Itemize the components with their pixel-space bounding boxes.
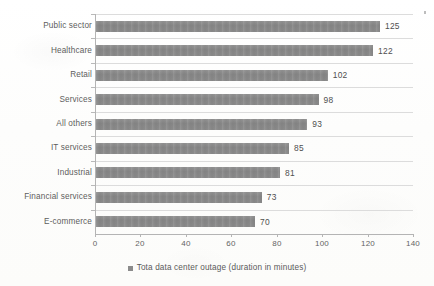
bar bbox=[96, 167, 280, 178]
bar bbox=[96, 94, 319, 105]
gridline bbox=[95, 210, 413, 211]
category-label: Public sector bbox=[0, 22, 92, 30]
x-axis-tick bbox=[277, 234, 278, 237]
bar bbox=[96, 70, 328, 81]
x-axis-tick-label: 120 bbox=[353, 240, 383, 248]
x-axis-tick-label: 40 bbox=[171, 240, 201, 248]
bar bbox=[96, 216, 255, 227]
y-axis-tick bbox=[91, 161, 95, 162]
category-label: IT services bbox=[0, 144, 92, 152]
bar-value-label: 70 bbox=[260, 218, 270, 226]
x-axis-tick-label: 60 bbox=[216, 240, 246, 248]
gridline bbox=[95, 87, 413, 88]
plot-area: Public sectorHealthcareRetailServicesAll… bbox=[0, 0, 434, 286]
bar-value-label: 85 bbox=[294, 144, 304, 152]
bar bbox=[96, 21, 380, 32]
x-axis-tick-label: 0 bbox=[80, 240, 110, 248]
bar-value-label: 73 bbox=[267, 193, 277, 201]
x-axis-tick bbox=[95, 234, 96, 237]
category-label: Retail bbox=[0, 71, 92, 79]
x-axis-tick bbox=[368, 234, 369, 237]
bar-value-label: 102 bbox=[333, 71, 348, 79]
bar-value-label: 93 bbox=[312, 120, 322, 128]
gridline bbox=[95, 63, 413, 64]
y-axis-tick bbox=[91, 136, 95, 137]
bar-value-label: 122 bbox=[378, 47, 393, 55]
x-axis-tick bbox=[322, 234, 323, 237]
legend-swatch-icon bbox=[128, 266, 133, 271]
bar bbox=[96, 45, 373, 56]
x-axis-line bbox=[95, 234, 413, 235]
y-axis-tick bbox=[91, 38, 95, 39]
x-axis-tick-label: 20 bbox=[125, 240, 155, 248]
gridline bbox=[95, 185, 413, 186]
y-axis-tick bbox=[91, 63, 95, 64]
gridline bbox=[95, 112, 413, 113]
gridline bbox=[95, 38, 413, 39]
x-axis-tick-label: 140 bbox=[398, 240, 428, 248]
y-axis-tick bbox=[91, 210, 95, 211]
category-label: Healthcare bbox=[0, 47, 92, 55]
bar bbox=[96, 119, 307, 130]
gridline bbox=[95, 136, 413, 137]
x-axis-tick-label: 100 bbox=[307, 240, 337, 248]
category-label: Financial services bbox=[0, 193, 92, 201]
x-axis-tick bbox=[140, 234, 141, 237]
category-label: Industrial bbox=[0, 169, 92, 177]
gridline bbox=[95, 14, 413, 15]
category-label: E-commerce bbox=[0, 218, 92, 226]
gridline bbox=[95, 161, 413, 162]
y-axis-tick bbox=[91, 87, 95, 88]
chart-figure: Public sectorHealthcareRetailServicesAll… bbox=[0, 0, 434, 286]
bar-value-label: 125 bbox=[385, 22, 400, 30]
y-axis-tick bbox=[91, 185, 95, 186]
y-axis-tick bbox=[91, 14, 95, 15]
x-axis-tick bbox=[231, 234, 232, 237]
category-label: Services bbox=[0, 96, 92, 104]
bar-value-label: 98 bbox=[324, 96, 334, 104]
y-axis-tick bbox=[91, 112, 95, 113]
bar bbox=[96, 143, 289, 154]
y-axis-line bbox=[95, 14, 96, 234]
x-axis-tick bbox=[413, 234, 414, 237]
bar-value-label: 81 bbox=[285, 169, 295, 177]
legend-label: Tota data center outage (duration in min… bbox=[137, 264, 307, 272]
category-label: All others bbox=[0, 120, 92, 128]
bar bbox=[96, 192, 262, 203]
scan-artifact-speck bbox=[424, 11, 426, 14]
x-axis-tick-label: 80 bbox=[262, 240, 292, 248]
x-axis-tick bbox=[186, 234, 187, 237]
chart-legend: Tota data center outage (duration in min… bbox=[0, 264, 434, 272]
